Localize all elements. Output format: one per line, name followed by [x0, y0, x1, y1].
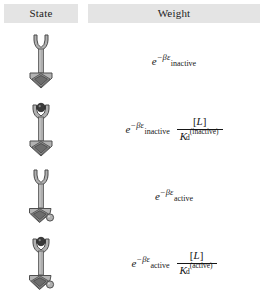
weight-cell: e−βεactive [L] Kd(active)	[88, 230, 260, 296]
dissociation-constant-superscript: (inactive)	[190, 128, 219, 136]
energy-subscript: inactive	[144, 128, 169, 136]
weight-cell: e−βεinactive [L] Kd(inactive)	[88, 96, 260, 162]
exponent: −βε	[136, 255, 150, 264]
energy-subscript: active	[150, 262, 169, 270]
weight-expression: e−βεinactive	[152, 56, 196, 67]
ligand-concentration-fraction: [L] Kd(active)	[177, 250, 217, 276]
active-bound-receptor-icon	[24, 234, 58, 292]
inactive-unbound-receptor-icon	[24, 32, 58, 90]
states-and-weights-figure: State Weight	[0, 0, 264, 298]
table-header: State Weight	[0, 4, 264, 23]
ligand-marker	[37, 237, 45, 245]
active-unbound-receptor-icon	[24, 167, 58, 225]
fraction-denominator: Kd(active)	[177, 264, 217, 277]
ligand-marker	[37, 103, 45, 111]
state-cell	[4, 164, 78, 228]
weight-cell: e−βεinactive	[88, 28, 260, 94]
exponent: −βε	[130, 121, 144, 130]
state-cell	[4, 96, 78, 162]
inactive-bound-receptor-icon	[24, 100, 58, 158]
boltzmann-factor: e−βεinactive	[125, 124, 169, 135]
weight-expression: e−βεactive	[155, 191, 193, 202]
boltzmann-factor: e−βεinactive	[152, 56, 196, 67]
dissociation-constant-superscript: (active)	[190, 262, 213, 270]
state-cell	[4, 230, 78, 296]
weight-cell: e−βεactive	[88, 164, 260, 228]
exponent: −βε	[157, 53, 171, 62]
state-cell	[4, 28, 78, 94]
weight-expression: e−βεactive [L] Kd(active)	[131, 250, 216, 276]
exponent: −βε	[160, 188, 174, 197]
weight-expression: e−βεinactive [L] Kd(inactive)	[125, 116, 222, 142]
table-row: e−βεinactive	[0, 28, 264, 94]
energy-subscript: active	[174, 195, 193, 203]
state-column-header: State	[4, 4, 78, 23]
fraction-denominator: Kd(inactive)	[177, 130, 223, 143]
boltzmann-factor: e−βεactive	[155, 191, 193, 202]
weight-column-header: Weight	[88, 4, 260, 23]
activation-marker	[46, 214, 53, 221]
activation-marker	[46, 281, 53, 288]
energy-subscript: inactive	[171, 60, 196, 68]
boltzmann-factor: e−βεactive	[131, 258, 169, 269]
ligand-concentration-fraction: [L] Kd(inactive)	[177, 116, 223, 142]
table-row: e−βεinactive [L] Kd(inactive)	[0, 96, 264, 162]
table-row: e−βεactive	[0, 164, 264, 228]
table-row: e−βεactive [L] Kd(active)	[0, 230, 264, 296]
